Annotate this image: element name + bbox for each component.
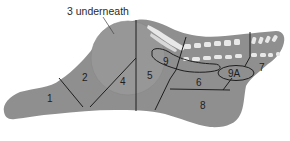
region-8-label: 8: [200, 100, 206, 111]
region-4-label: 4: [120, 76, 126, 87]
region-5-label: 5: [147, 70, 153, 81]
muscle-diagram: 3 underneath 1 2 4 5 6 7 8 9 9A: [0, 0, 290, 141]
region-9A-label: 9A: [228, 68, 241, 79]
region-7-label: 7: [259, 62, 265, 73]
callout-3-underneath: 3 underneath: [67, 5, 129, 17]
region-1-label: 1: [47, 93, 53, 104]
region-9-label: 9: [163, 56, 169, 67]
region-6-label: 6: [196, 77, 202, 88]
region-2-label: 2: [82, 72, 88, 83]
